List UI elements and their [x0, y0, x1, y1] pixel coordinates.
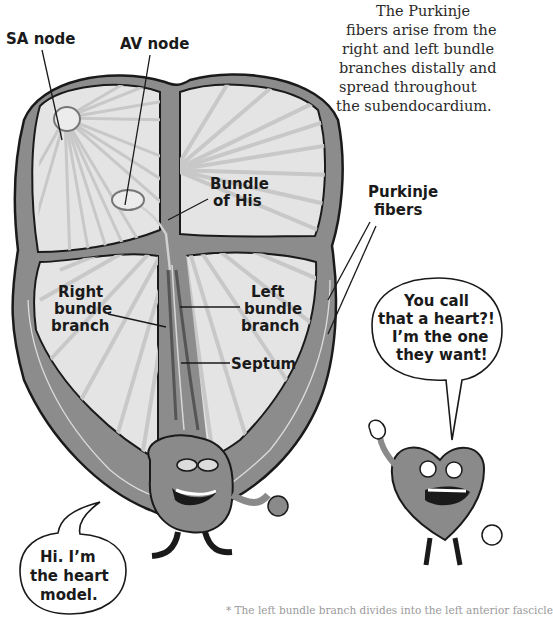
- right-atrium: [30, 80, 170, 260]
- bubble-line: I’m the one: [392, 328, 489, 346]
- bubble-line: Hi. I’m: [40, 548, 96, 566]
- eye-icon: [177, 459, 197, 471]
- left-atrium: [175, 80, 330, 237]
- label-right-bundle-line3: branch: [51, 317, 110, 335]
- label-septum: Septum: [231, 355, 296, 373]
- av-node: [112, 190, 144, 210]
- label-left-bundle-line2: bundle: [244, 300, 302, 318]
- cartoon-heart-character: [369, 420, 502, 565]
- label-purkinje-line2: fibers: [374, 201, 422, 219]
- label-purkinje-line1: Purkinje: [368, 183, 438, 201]
- eye-icon: [446, 462, 462, 478]
- footnote: * The left bundle branch divides into th…: [226, 604, 553, 616]
- label-left-bundle-line3: branch: [241, 317, 300, 335]
- label-av-node: AV node: [120, 35, 189, 53]
- label-left-bundle-line1: Left: [251, 283, 284, 301]
- label-right-bundle-line2: bundle: [54, 300, 112, 318]
- bubble-line: You call: [403, 292, 469, 310]
- bubble-line: model.: [40, 586, 98, 604]
- bubble-line: they want!: [396, 346, 488, 364]
- bubble-line: the heart: [30, 567, 109, 585]
- label-right-bundle-line1: Right: [58, 283, 103, 301]
- label-bundle-of-his-line2: of His: [213, 192, 262, 210]
- eye-icon: [198, 459, 218, 471]
- bubble-line: that a heart?!: [378, 310, 495, 328]
- label-bundle-of-his-line1: Bundle: [210, 175, 269, 193]
- label-sa-node: SA node: [6, 30, 76, 48]
- eye-icon: [420, 461, 436, 477]
